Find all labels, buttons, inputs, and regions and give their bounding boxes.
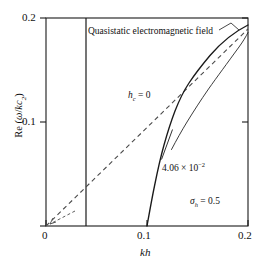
y-axis-title-subscript: 2 [20,97,28,101]
x-tick-label-0.2: 0.2 [238,229,252,241]
y-axis-title: Re (ω/kc2) [8,66,27,166]
chart-canvas [0,0,267,268]
annotation-value-exponent: −2 [198,161,205,168]
y-axis-title-slash: / [13,110,24,113]
annotation-value-mantissa: 4.06 × 10 [162,163,198,173]
y-axis-title-omega: ω [13,113,24,120]
y-tick-label-0.2: 0.2 [22,11,36,23]
figure-container: 0.2 0.1 0 0.1 0.2 kh Re (ω/kc2) Quasista… [0,0,267,268]
y-axis-title-suffix: ) [13,93,24,97]
plot-frame [46,18,248,226]
y-axis-title-prefix: Re ( [13,120,24,138]
annotation-value: 4.06 × 10−2 [162,161,205,173]
y-axis-title-k: k [13,105,24,110]
annotation-hc: hc = 0 [128,90,150,102]
annotation-sigma-equals: = 0.5 [198,196,220,206]
x-tick-label-0: 0 [42,229,48,241]
annotation-sigma: σh = 0.5 [190,196,220,208]
annotation-hc-equals: = 0 [136,90,151,100]
annotation-quasistatic: Quasistatic electromagnetic field [88,26,213,36]
x-tick-label-0.1: 0.1 [137,229,151,241]
y-axis-title-c: c [13,100,24,105]
x-axis-title: kh [140,246,150,258]
